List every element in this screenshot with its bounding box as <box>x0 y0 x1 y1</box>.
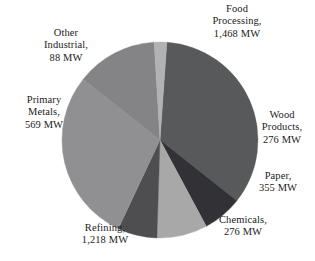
pie-chart-figure: Food Processing, 1,468 MW Other Industri… <box>0 0 315 261</box>
pie-slice-group <box>62 42 258 238</box>
slice-label-paper: Paper, 355 MW <box>246 170 310 195</box>
slice-label-food-processing: Food Processing, 1,468 MW <box>185 3 289 40</box>
slice-label-other-industrial: Other Industrial, 88 MW <box>18 27 114 64</box>
slice-label-primary-metals: Primary Metals, 569 MW <box>2 94 86 131</box>
slice-label-refining: Refining, 1,218 MW <box>61 222 149 247</box>
slice-label-wood-products: Wood Products, 276 MW <box>250 109 314 146</box>
slice-label-chemicals: Chemicals, 276 MW <box>203 214 283 239</box>
